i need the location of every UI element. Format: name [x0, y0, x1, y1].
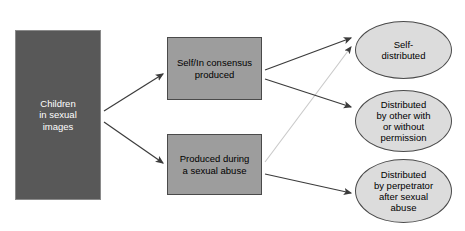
flow-diagram: Children in sexual images Self/In consen…	[0, 0, 465, 231]
edge-consensus-to-self-distributed	[265, 38, 351, 70]
node-distributed-by-other[interactable]: Distributed by other with or without per…	[355, 90, 452, 152]
node-self-in-consensus-produced[interactable]: Self/In consensus produced	[167, 37, 262, 100]
node-self-distributed[interactable]: Self- distributed	[355, 21, 452, 79]
node-distributed-by-perpetrator[interactable]: Distributed by perpetrator after sexual …	[355, 159, 452, 223]
node-children-in-sexual-images[interactable]: Children in sexual images	[15, 30, 101, 200]
edge-abuse-to-perpetrator	[265, 174, 351, 193]
edge-source-to-abuse	[104, 122, 163, 163]
node-label-source: Children in sexual images	[39, 98, 77, 132]
node-label-stage-abuse: Produced during a sexual abuse	[180, 153, 250, 175]
node-label-outcome-self: Self- distributed	[382, 39, 426, 61]
edge-abuse-to-self-distributed	[265, 47, 351, 162]
edge-source-to-consensus	[104, 74, 163, 111]
node-produced-during-a-sexual-abuse[interactable]: Produced during a sexual abuse	[167, 134, 262, 195]
node-label-outcome-perpetrator: Distributed by perpetrator after sexual …	[374, 169, 433, 214]
edge-consensus-to-other	[265, 79, 351, 107]
node-label-stage-consensus: Self/In consensus produced	[177, 57, 252, 79]
node-label-outcome-other: Distributed by other with or without per…	[377, 99, 431, 144]
